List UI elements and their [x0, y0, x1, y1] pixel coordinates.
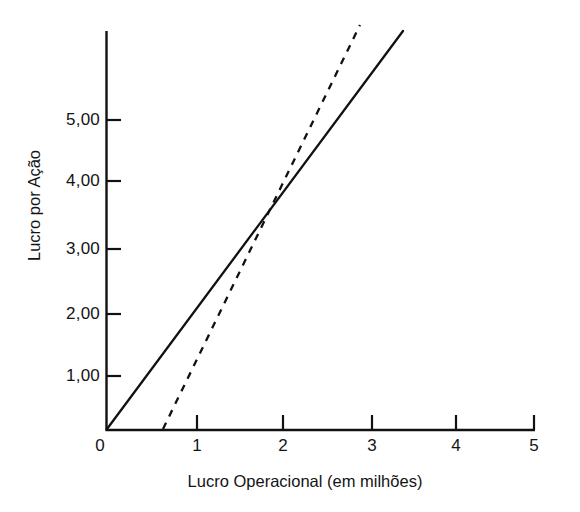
chart-container: 5,00 4,00 3,00 2,00 1,00 0 1 2 3 4 5 Luc…	[0, 0, 580, 512]
x-axis-ticks	[197, 415, 534, 430]
x-tick-label-2: 2	[278, 436, 288, 456]
y-tick-label-2: 2,00	[48, 304, 100, 324]
y-tick-label-3: 3,00	[48, 239, 100, 259]
x-axis-title: Lucro Operacional (em milhões)	[188, 472, 423, 491]
y-tick-label-1: 1,00	[48, 366, 100, 386]
series-line-solid	[107, 31, 403, 429]
x-tick-label-3: 3	[367, 436, 377, 456]
y-tick-label-5: 5,00	[48, 110, 100, 130]
x-tick-label-4: 4	[451, 436, 461, 456]
x-tick-label-0: 0	[95, 436, 105, 456]
x-tick-label-1: 1	[192, 436, 202, 456]
y-axis-ticks	[106, 120, 121, 376]
series-line-dashed	[163, 25, 360, 429]
y-axis-title: Lucro por Ação	[25, 136, 44, 276]
x-tick-label-5: 5	[529, 436, 539, 456]
y-tick-label-4: 4,00	[48, 171, 100, 191]
